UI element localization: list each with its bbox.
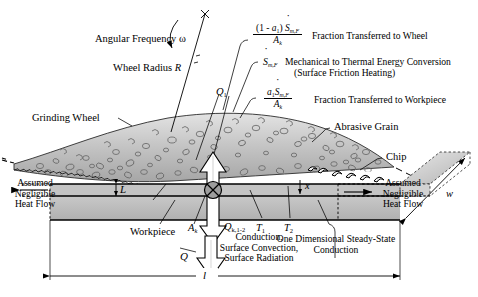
wheel-fraction-numerator: (1 - a1) Sm,F bbox=[253, 23, 302, 35]
abrasive-grain-label: Abrasive Grain bbox=[334, 121, 398, 133]
chip-label: Chip bbox=[386, 151, 406, 163]
wheel-fraction-expression: (1 - a1) Sm,F Ak bbox=[253, 23, 302, 47]
equation-workpiece-fraction: a1Sm,F Ak bbox=[264, 87, 292, 111]
grinding-wheel-label: Grinding Wheel bbox=[32, 112, 100, 124]
dimension-L-label: L bbox=[120, 183, 126, 195]
q1-label: Q1 bbox=[216, 86, 227, 98]
workpiece-label: Workpiece bbox=[130, 226, 175, 238]
angular-frequency-label: Angular Frequency ω bbox=[95, 33, 186, 45]
assumed-negligible-heat-flow-left: Assumed Negligible Heat Flow bbox=[4, 178, 66, 210]
source-term-symbol: Sm,F bbox=[263, 57, 278, 68]
anhf-left-line3: Heat Flow bbox=[4, 199, 66, 210]
wheel-fraction-denominator: Ak bbox=[253, 35, 302, 47]
wheel-radius-label: Wheel Radius R bbox=[113, 62, 181, 74]
figure-canvas: Angular Frequency ω Wheel Radius R Grind… bbox=[0, 0, 478, 297]
q-total-label: Q bbox=[180, 250, 188, 262]
wheel-radius-symbol: R bbox=[175, 62, 181, 73]
anhf-right-line3: Heat Flow bbox=[372, 199, 434, 210]
one-dimensional-conduction-note: One Dimensional Steady-State Conduction bbox=[258, 234, 414, 255]
assumed-negligible-heat-flow-right: Assumed Negligible Heat Flow bbox=[372, 178, 434, 210]
surface-friction-heating-note: (Surface Friction Heating) bbox=[294, 68, 395, 79]
fraction-to-workpiece-description: Fraction Transferred to Workpiece bbox=[314, 95, 446, 106]
fraction-to-wheel-description: Fraction Transferred to Wheel bbox=[312, 31, 428, 42]
workpiece-fraction-expression: a1Sm,F Ak bbox=[264, 87, 292, 111]
q1-subscript: 1 bbox=[224, 91, 227, 98]
odc-line2: Conduction bbox=[258, 245, 414, 256]
workpiece-fraction-denominator: Ak bbox=[264, 99, 292, 111]
x-axis-right-label: x bbox=[305, 180, 310, 192]
velocity-into-page-icon bbox=[205, 182, 222, 199]
q1-symbol: Q bbox=[216, 86, 224, 97]
wheel-radius-text: Wheel Radius bbox=[113, 62, 172, 73]
workpiece-fraction-numerator: a1Sm,F bbox=[264, 87, 292, 99]
dimension-l-label: l bbox=[203, 269, 206, 281]
qk12-symbol: Q bbox=[224, 221, 232, 232]
dimension-w-label: w bbox=[446, 188, 453, 200]
equation-wheel-fraction: (1 - a1) Sm,F Ak bbox=[253, 23, 302, 47]
